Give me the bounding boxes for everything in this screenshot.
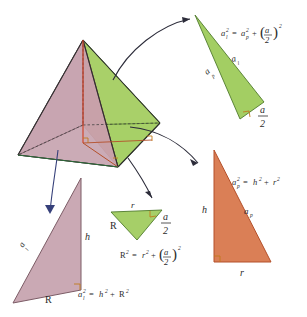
svg-text:l: l: [24, 247, 30, 252]
svg-text:2: 2: [163, 225, 168, 236]
label-apothem-base: r: [240, 267, 244, 278]
apothem-equation: a p 2 = h 2 + r 2: [232, 176, 280, 189]
label-base-right-fraction: a 2: [161, 211, 171, 236]
svg-text:a: a: [230, 53, 237, 64]
svg-text:+: +: [110, 289, 115, 299]
label-apothem-height: h: [202, 204, 207, 215]
lateral-edge-triangle: [13, 178, 81, 303]
svg-text:a: a: [232, 177, 236, 187]
svg-text:l: l: [226, 34, 228, 40]
svg-text:a: a: [164, 247, 168, 257]
svg-text:p: p: [209, 72, 216, 79]
svg-text:l: l: [83, 295, 85, 301]
svg-text:2: 2: [105, 288, 108, 294]
apothem-triangle: [214, 150, 271, 262]
svg-text:=: =: [132, 250, 137, 260]
svg-text:2: 2: [246, 27, 249, 33]
svg-text:2: 2: [259, 176, 262, 182]
square-pyramid: [18, 40, 160, 167]
svg-text:=: =: [232, 28, 237, 38]
svg-text:): ): [273, 24, 278, 41]
label-edge-height: h: [85, 231, 90, 242]
svg-text:a: a: [16, 240, 27, 250]
label-base-top: r: [131, 200, 135, 210]
svg-text:p: p: [245, 34, 249, 40]
svg-text:p: p: [249, 212, 253, 218]
svg-text:): ): [172, 246, 177, 263]
svg-text:a: a: [260, 104, 265, 115]
label-edge-base: R: [45, 294, 52, 305]
label-slant-base-fraction: a 2: [258, 104, 268, 129]
svg-text:a: a: [163, 211, 168, 222]
label-slant-hyp: a l: [230, 53, 240, 66]
svg-text:2: 2: [126, 288, 129, 294]
arrow-to-base-triangle: [128, 158, 152, 198]
svg-text:2: 2: [164, 257, 169, 267]
svg-text:2: 2: [260, 118, 265, 129]
lateral-edge-equation: a l 2 = h 2 + R 2: [78, 288, 129, 301]
base-half-triangle: [111, 210, 162, 240]
svg-text:=: =: [243, 177, 248, 187]
diagram-canvas: a l a p a 2 a l 2 = a p 2 + ( a 2 ) 2: [0, 0, 307, 317]
svg-text:2: 2: [126, 249, 129, 255]
svg-text:h: h: [253, 177, 257, 187]
svg-text:2: 2: [279, 23, 282, 29]
svg-text:+: +: [151, 250, 156, 260]
slant-height-equation: a l 2 = a p 2 + ( a 2 ) 2: [221, 23, 282, 45]
svg-text:=: =: [89, 289, 94, 299]
svg-text:2: 2: [146, 249, 149, 255]
geometry-figure: a l a p a 2 a l 2 = a p 2 + ( a 2 ) 2: [0, 0, 307, 317]
svg-text:+: +: [252, 28, 257, 38]
svg-text:a: a: [265, 25, 269, 35]
svg-text:a: a: [78, 289, 82, 299]
svg-text:2: 2: [226, 27, 229, 33]
label-base-left: R: [110, 220, 117, 231]
svg-text:2: 2: [265, 35, 270, 45]
label-edge-hyp: a l: [16, 240, 30, 252]
svg-text:l: l: [237, 60, 240, 66]
svg-text:a: a: [241, 28, 245, 38]
svg-text:a: a: [221, 28, 225, 38]
circumradius-equation: R 2 = r 2 + ( a 2 ) 2: [120, 245, 181, 267]
label-slant-leg: a p: [202, 66, 216, 80]
svg-text:2: 2: [237, 176, 240, 182]
svg-text:R: R: [119, 289, 125, 299]
svg-text:2: 2: [83, 288, 86, 294]
arrow-to-slant-triangle: [113, 17, 190, 80]
svg-text:2: 2: [277, 176, 280, 182]
svg-text:a: a: [244, 206, 249, 216]
svg-text:p: p: [236, 183, 240, 189]
svg-text:+: +: [264, 177, 269, 187]
svg-text:2: 2: [178, 245, 181, 251]
svg-text:h: h: [99, 289, 103, 299]
